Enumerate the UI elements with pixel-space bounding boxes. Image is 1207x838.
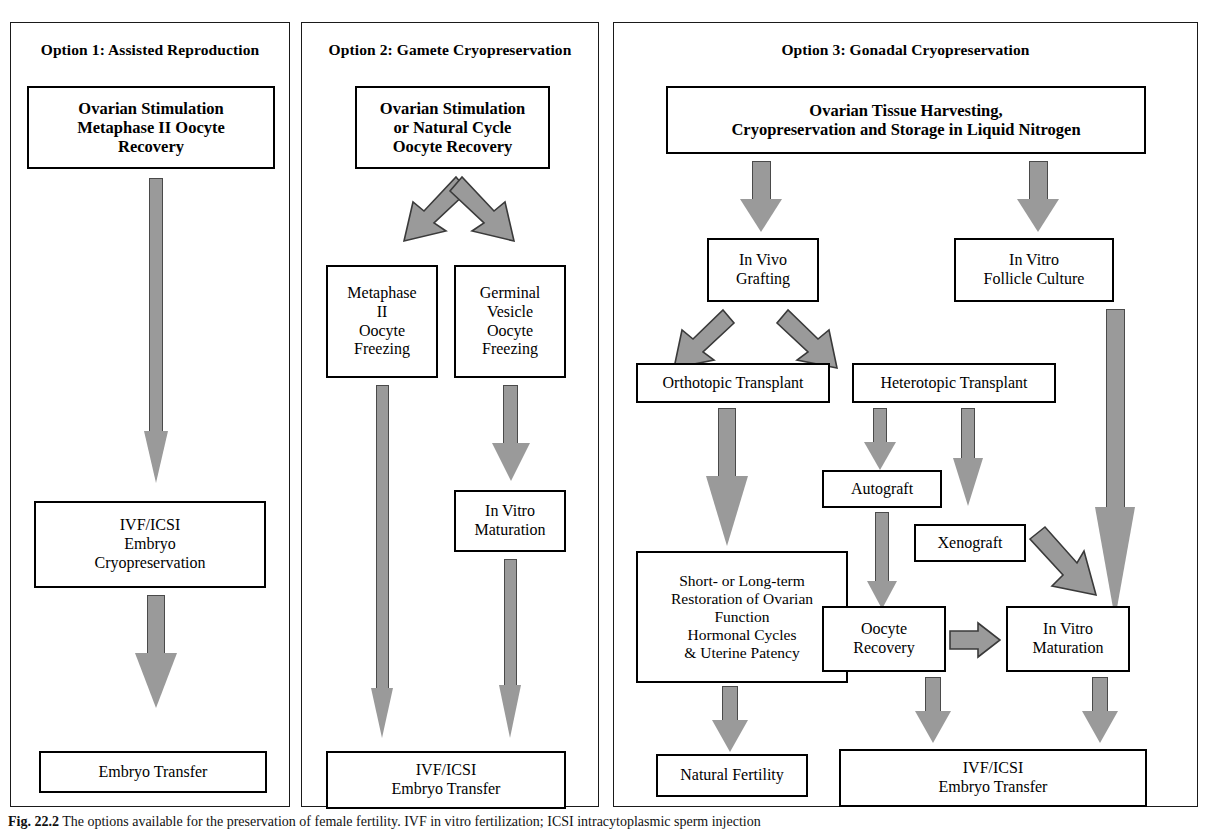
panel-option-2: Option 2: Gamete Cryopreservation Ovaria… xyxy=(301,22,599,807)
arrow-down-2 xyxy=(11,23,289,806)
box-line: IVF/ICSI xyxy=(332,761,560,780)
box-ivf-icsi-embryo-transfer-3: IVF/ICSI Embryo Transfer xyxy=(839,749,1147,807)
figure-caption-body: The options available for the preservati… xyxy=(62,814,761,829)
box-line: Embryo Transfer xyxy=(845,778,1141,797)
figure-flowchart: Option 1: Assisted Reproduction Ovarian … xyxy=(0,0,1207,838)
box-line: Embryo Transfer xyxy=(45,763,261,782)
box-line: Natural Fertility xyxy=(662,766,802,785)
figure-caption: Fig. 22.2 The options available for the … xyxy=(8,812,1198,832)
panel-option-1: Option 1: Assisted Reproduction Ovarian … xyxy=(10,22,290,807)
arrow-down-ivm-to-ivf xyxy=(614,23,1197,806)
box-line: IVF/ICSI xyxy=(845,759,1141,778)
box-embryo-transfer: Embryo Transfer xyxy=(39,751,267,793)
figure-caption-label: Fig. 22.2 xyxy=(8,814,59,829)
box-line: Embryo Transfer xyxy=(332,780,560,799)
box-natural-fertility: Natural Fertility xyxy=(656,754,808,797)
arrow-down-long-right-2 xyxy=(302,23,598,806)
panel-option-3: Option 3: Gonadal Cryopreservation Ovari… xyxy=(613,22,1198,807)
box-ivf-icsi-embryo-transfer-2: IVF/ICSI Embryo Transfer xyxy=(326,751,566,809)
